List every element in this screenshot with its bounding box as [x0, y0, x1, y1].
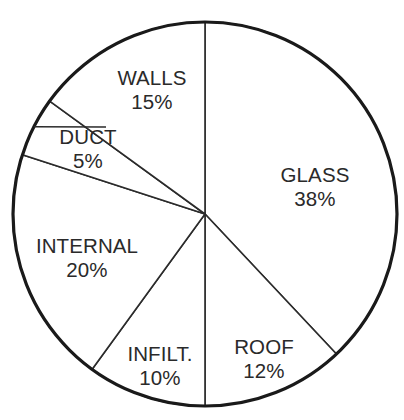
pie-chart-svg	[0, 0, 404, 420]
pie-chart-figure: GLASS38%ROOF12%INFILT.10%INTERNAL20%DUCT…	[0, 0, 404, 420]
pie-slice-group	[13, 22, 397, 406]
